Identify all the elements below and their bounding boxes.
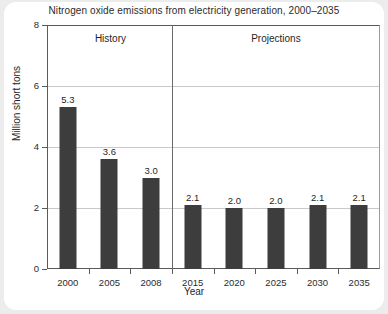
bar-slot: 2.1 bbox=[172, 25, 214, 269]
x-axis-tick-mark bbox=[130, 269, 131, 274]
bar[interactable] bbox=[101, 159, 118, 269]
y-axis-tick-label: 0 bbox=[17, 263, 39, 274]
bar-value-label: 3.6 bbox=[103, 146, 116, 157]
bar-value-label: 5.3 bbox=[61, 94, 74, 105]
bar[interactable] bbox=[267, 208, 284, 269]
y-axis-tick-label: 2 bbox=[17, 202, 39, 213]
x-axis-tick-mark bbox=[255, 269, 256, 274]
bar-value-label: 2.1 bbox=[311, 192, 324, 203]
bar[interactable] bbox=[184, 205, 201, 269]
bar-slot: 2.0 bbox=[255, 25, 297, 269]
bar[interactable] bbox=[351, 205, 368, 269]
bar-slot: 3.0 bbox=[130, 25, 172, 269]
bar-slot: 2.1 bbox=[338, 25, 380, 269]
x-axis-title: Year bbox=[4, 286, 384, 297]
bar[interactable] bbox=[309, 205, 326, 269]
bar-slot: 3.6 bbox=[89, 25, 131, 269]
bar[interactable] bbox=[143, 178, 160, 270]
y-axis-tick-mark bbox=[42, 269, 47, 270]
bar[interactable] bbox=[226, 208, 243, 269]
x-axis-tick-mark bbox=[214, 269, 215, 274]
y-axis-tick-label: 8 bbox=[17, 19, 39, 30]
bar-value-label: 2.1 bbox=[353, 192, 366, 203]
bar-slot: 5.3 bbox=[47, 25, 89, 269]
x-axis-tick-mark bbox=[172, 269, 173, 274]
chart-card: Nitrogen oxide emissions from electricit… bbox=[4, 2, 384, 310]
bar-slot: 2.1 bbox=[297, 25, 339, 269]
bar-value-label: 2.1 bbox=[186, 192, 199, 203]
x-axis-tick-mark bbox=[338, 269, 339, 274]
x-axis-tick-mark bbox=[297, 269, 298, 274]
plot-area: History Projections 5.33.63.02.12.02.02.… bbox=[47, 25, 380, 269]
chart-title: Nitrogen oxide emissions from electricit… bbox=[4, 5, 384, 16]
y-axis-title: Million short tons bbox=[11, 44, 22, 164]
bar-slot: 2.0 bbox=[214, 25, 256, 269]
bar-value-label: 2.0 bbox=[228, 195, 241, 206]
bar[interactable] bbox=[59, 107, 76, 269]
bar-value-label: 2.0 bbox=[269, 195, 282, 206]
x-axis-tick-mark bbox=[89, 269, 90, 274]
bar-value-label: 3.0 bbox=[144, 165, 157, 176]
